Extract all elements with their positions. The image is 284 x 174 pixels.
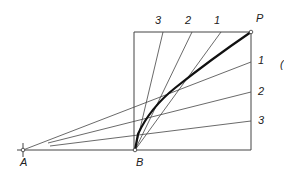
label-b: B (136, 156, 143, 168)
ray-b-2 (135, 32, 192, 150)
point-a-marker (21, 148, 25, 152)
label-p: P (256, 12, 264, 24)
parabola-curve (135, 32, 251, 150)
label-right-3: 3 (258, 114, 265, 126)
label-top-1: 1 (214, 14, 220, 26)
point-p-marker (249, 30, 253, 34)
construction-box (134, 32, 251, 150)
ray-b-1 (135, 32, 221, 150)
label-right-2: 2 (257, 85, 264, 97)
point-b-marker (133, 148, 137, 152)
label-top-2: 2 (184, 14, 191, 26)
ray-a-3 (50, 121, 251, 146)
label-top-3: 3 (155, 14, 162, 26)
construction-diagram: A B P 3 2 1 1 2 3 ( (0, 0, 284, 174)
ray-a-2 (48, 92, 251, 143)
label-a: A (19, 156, 27, 168)
stray-mark: ( (280, 58, 284, 70)
label-right-1: 1 (258, 54, 264, 66)
